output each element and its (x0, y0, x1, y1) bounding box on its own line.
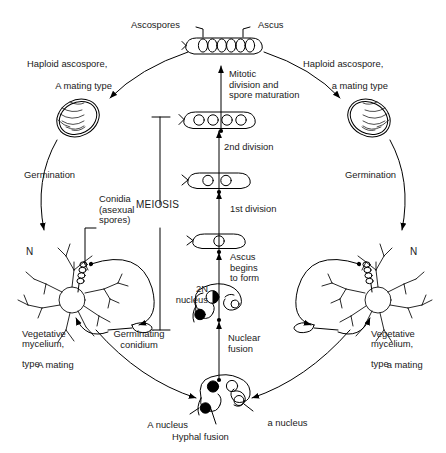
label-ascus: Ascus (258, 20, 284, 31)
asexual-loop-right-out (296, 259, 359, 325)
arrow-ascus-to-left-spore (110, 52, 188, 98)
label-mitotic-division: Mitotic division and spore maturation (229, 69, 299, 101)
a-nucleus-leader (244, 404, 253, 411)
label-nuclear-fusion: Nuclear fusion (228, 333, 260, 354)
veg-a-line2: mycelium, (371, 339, 413, 350)
ascus-leader (243, 27, 250, 37)
label-ascus-begins-to-form: Ascus begins to form (230, 252, 259, 284)
label-haploid-a-mating-rest: mating type (337, 80, 388, 91)
label-a-nucleus: a nucleus (257, 407, 308, 439)
label-haploid-ascospore-A-line1: Haploid ascospore, (27, 59, 107, 70)
germinating-conidium-right (294, 323, 338, 333)
ascus-two-spore (182, 173, 250, 189)
fungal-life-cycle-figure: Ascospores Ascus Mitotic division and sp… (0, 0, 446, 453)
ascus-four-spore (179, 112, 255, 129)
asexual-loop-left-out (91, 259, 154, 325)
veg-a-line4: type (371, 359, 389, 370)
label-meiosis: MEIOSIS (136, 200, 179, 211)
label-germination-right: Germination (345, 170, 396, 181)
arrow-right-germination (390, 140, 405, 230)
label-first-division: 1st division (230, 204, 276, 215)
label-germinating-conidium: Germinating conidium (103, 329, 175, 350)
veg-A-line2: mycelium, (22, 339, 64, 350)
process-arrows (219, 66, 221, 380)
label-germination-left: Germination (24, 170, 75, 181)
label-hyphal-fusion: Hyphal fusion (172, 432, 229, 443)
ascus-one-nucleus (187, 234, 245, 249)
label-N-right: N (410, 247, 417, 258)
veg-A-mating-rest: mating (43, 359, 74, 370)
label-N-left: N (26, 247, 33, 258)
conidia-leader (85, 228, 96, 264)
hyphal-fusion-cell (198, 375, 250, 415)
arrow-left-germination (41, 140, 57, 230)
mature-ascus (182, 38, 262, 54)
veg-a-mating-rest: mating (392, 359, 423, 370)
veg-A-line4: type (22, 359, 40, 370)
label-ascospores: Ascospores (131, 20, 180, 31)
label-second-division: 2nd division (224, 142, 274, 153)
label-conidia: Conidia (asexual spores) (99, 194, 134, 226)
arrow-right-to-fusion (252, 330, 350, 398)
label-2n-nucleus: 2N nucleus (158, 284, 208, 305)
label-a-nucleus-rest: nucleus (273, 417, 308, 428)
label-haploid-A-mating-rest: mating type (61, 80, 112, 91)
label-haploid-ascospore-a-line1: Haploid ascospore, (303, 59, 383, 70)
ascospores-leader (196, 27, 203, 37)
label-A-nucleus-rest: nucleus (153, 419, 188, 430)
